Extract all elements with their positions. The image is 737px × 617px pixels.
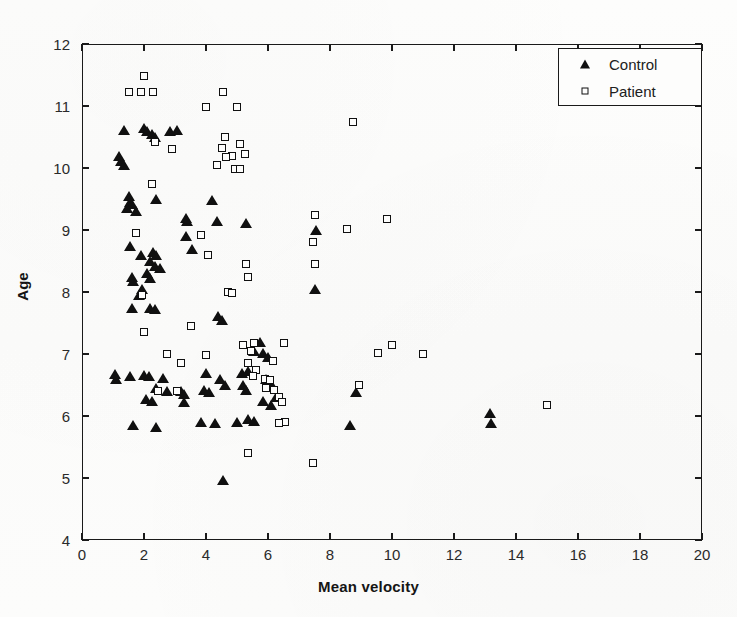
x-axis-tick-label: 6: [264, 546, 272, 563]
patient-marker: [140, 328, 148, 336]
patient-marker: [349, 118, 357, 126]
control-marker: [143, 371, 155, 381]
patient-marker: [278, 398, 286, 406]
patient-marker: [309, 459, 317, 467]
control-marker: [130, 206, 142, 216]
y-axis-tick-label: 7: [30, 346, 70, 363]
patient-marker: [249, 372, 257, 380]
patient-marker: [213, 161, 221, 169]
control-marker: [146, 396, 158, 406]
control-marker: [157, 373, 169, 383]
control-marker: [211, 216, 223, 226]
patient-marker: [383, 215, 391, 223]
control-marker: [309, 284, 321, 294]
x-axis-tick-label: 10: [384, 546, 401, 563]
patient-marker: [148, 180, 156, 188]
control-marker: [209, 418, 221, 428]
control-marker: [216, 315, 228, 325]
control-marker: [203, 387, 215, 397]
patient-marker: [250, 339, 258, 347]
patient-marker: [247, 347, 255, 355]
y-axis-tick-label: 9: [30, 222, 70, 239]
patient-marker: [236, 165, 244, 173]
filled-triangle-icon: [580, 59, 590, 68]
x-axis-tick-label: 0: [78, 546, 86, 563]
scatter-plot-figure: Age Mean velocity 0246810121416182045678…: [0, 0, 737, 617]
patient-marker: [154, 387, 162, 395]
patient-marker: [221, 133, 229, 141]
chart-legend[interactable]: Control Patient: [558, 48, 702, 106]
patient-marker: [419, 350, 427, 358]
patient-marker: [244, 449, 252, 457]
control-marker: [154, 263, 166, 273]
patient-marker: [202, 103, 210, 111]
control-marker: [126, 303, 138, 313]
patient-marker: [218, 144, 226, 152]
x-axis-tick-label: 14: [508, 546, 525, 563]
legend-label-patient: Patient: [609, 82, 656, 99]
y-axis-tick-label: 4: [30, 532, 70, 549]
x-axis-label: Mean velocity: [0, 578, 737, 595]
patient-marker: [125, 88, 133, 96]
patient-marker: [173, 387, 181, 395]
control-marker: [200, 368, 212, 378]
patient-marker: [202, 351, 210, 359]
control-marker: [217, 475, 229, 485]
patient-marker: [151, 138, 159, 146]
x-axis-tick-label: 20: [694, 546, 711, 563]
y-axis-tick-label: 6: [30, 408, 70, 425]
open-square-icon: [582, 87, 589, 94]
patient-marker: [137, 88, 145, 96]
control-marker: [118, 125, 130, 135]
control-marker: [485, 418, 497, 428]
control-marker: [248, 416, 260, 426]
patient-marker: [309, 238, 317, 246]
patient-marker: [242, 260, 250, 268]
patient-marker: [233, 103, 241, 111]
x-axis-tick-label: 4: [202, 546, 210, 563]
control-marker: [484, 408, 496, 418]
x-axis-tick-label: 2: [140, 546, 148, 563]
patient-marker: [374, 349, 382, 357]
control-marker: [149, 304, 161, 314]
legend-label-control: Control: [609, 55, 657, 72]
patient-marker: [140, 72, 148, 80]
patient-marker: [269, 357, 277, 365]
x-axis-tick-label: 16: [570, 546, 587, 563]
control-marker: [161, 386, 173, 396]
plot-data-area: [82, 44, 702, 540]
x-axis-tick-label: 18: [632, 546, 649, 563]
patient-marker: [241, 150, 249, 158]
patient-marker: [168, 145, 176, 153]
y-axis-tick-label: 12: [30, 36, 70, 53]
control-marker: [344, 420, 356, 430]
patient-marker: [222, 153, 230, 161]
control-marker: [110, 374, 122, 384]
legend-entry-patient[interactable]: Patient: [559, 76, 701, 105]
control-marker: [181, 216, 193, 226]
control-marker: [219, 380, 231, 390]
patient-marker: [187, 322, 195, 330]
patient-marker: [275, 419, 283, 427]
patient-marker: [343, 225, 351, 233]
control-marker: [150, 422, 162, 432]
control-marker: [240, 218, 252, 228]
patient-marker: [197, 231, 205, 239]
control-marker: [150, 194, 162, 204]
y-axis-label: Age: [14, 247, 31, 327]
patient-marker: [280, 339, 288, 347]
patient-marker: [228, 289, 236, 297]
y-axis-tick-label: 8: [30, 284, 70, 301]
control-marker: [127, 420, 139, 430]
control-marker: [118, 160, 130, 170]
patient-marker: [355, 381, 363, 389]
legend-entry-control[interactable]: Control: [559, 49, 701, 78]
control-marker: [240, 385, 252, 395]
patient-marker: [244, 273, 252, 281]
patient-marker: [219, 88, 227, 96]
x-axis-tick-label: 8: [326, 546, 334, 563]
patient-marker: [311, 211, 319, 219]
control-marker: [180, 231, 192, 241]
patient-marker: [177, 359, 185, 367]
patient-marker: [204, 251, 212, 259]
